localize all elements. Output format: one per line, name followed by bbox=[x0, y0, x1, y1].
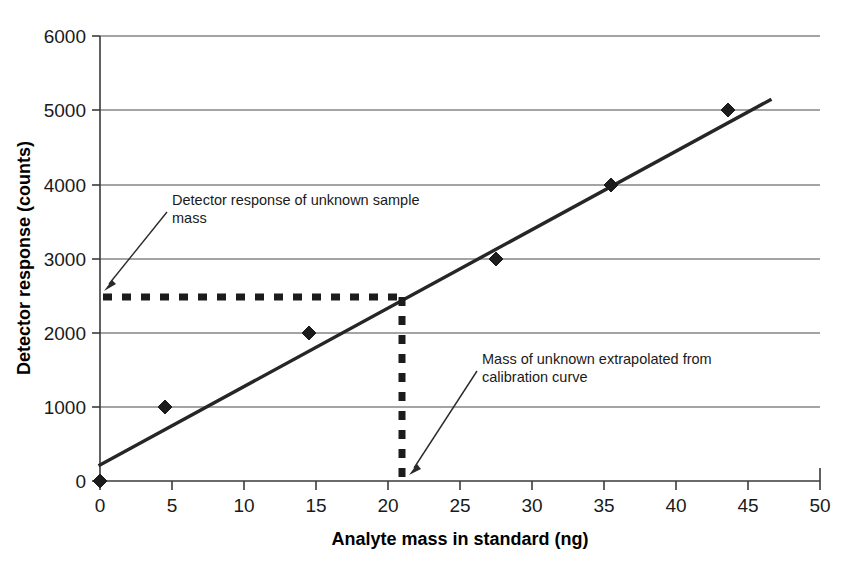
calibration-curve-chart: 6000 5000 4000 3000 2000 1000 0 0 5 10 1… bbox=[0, 0, 848, 562]
response-callout-line-1: Detector response of unknown sample bbox=[172, 192, 419, 208]
mass-callout: Mass of unknown extrapolated from calibr… bbox=[409, 351, 712, 475]
y-axis-title: Detector response (counts) bbox=[14, 141, 34, 375]
mass-callout-line-1: Mass of unknown extrapolated from bbox=[482, 351, 712, 367]
x-axis-ticks bbox=[100, 481, 820, 490]
x-tick-label-20: 20 bbox=[377, 495, 398, 516]
mass-callout-line-2: calibration curve bbox=[482, 369, 588, 385]
data-point-15-2000 bbox=[302, 326, 316, 340]
data-point-5-1000 bbox=[158, 400, 172, 414]
y-tick-label-1000: 1000 bbox=[44, 397, 86, 418]
y-tick-label-4000: 4000 bbox=[44, 175, 86, 196]
response-callout-line-2: mass bbox=[172, 210, 207, 226]
calibration-fit-line bbox=[100, 100, 770, 465]
x-tick-label-35: 35 bbox=[593, 495, 614, 516]
mass-callout-arrow-line bbox=[414, 371, 477, 468]
x-tick-label-5: 5 bbox=[167, 495, 178, 516]
y-tick-label-6000: 6000 bbox=[44, 26, 86, 47]
x-tick-label-50: 50 bbox=[809, 495, 830, 516]
response-callout: Detector response of unknown sample mass bbox=[104, 192, 419, 291]
x-axis-tick-labels: 0 5 10 15 20 25 30 35 40 45 50 bbox=[95, 495, 831, 516]
y-axis-tick-labels: 6000 5000 4000 3000 2000 1000 0 bbox=[44, 26, 86, 492]
response-callout-arrow-line bbox=[109, 212, 167, 284]
x-tick-label-30: 30 bbox=[521, 495, 542, 516]
y-tick-label-3000: 3000 bbox=[44, 249, 86, 270]
y-tick-label-2000: 2000 bbox=[44, 323, 86, 344]
chart-canvas: 6000 5000 4000 3000 2000 1000 0 0 5 10 1… bbox=[0, 0, 848, 562]
data-point-28-3000 bbox=[489, 252, 503, 266]
y-tick-label-5000: 5000 bbox=[44, 100, 86, 121]
x-tick-label-40: 40 bbox=[665, 495, 686, 516]
data-point-0-0 bbox=[93, 474, 107, 488]
y-axis-ticks bbox=[92, 36, 100, 481]
x-tick-label-0: 0 bbox=[95, 495, 106, 516]
data-point-44-5000 bbox=[721, 103, 735, 117]
gridlines bbox=[100, 36, 820, 407]
x-tick-label-25: 25 bbox=[449, 495, 470, 516]
x-tick-label-45: 45 bbox=[737, 495, 758, 516]
y-tick-label-0: 0 bbox=[75, 471, 86, 492]
x-tick-label-10: 10 bbox=[233, 495, 254, 516]
x-axis-title: Analyte mass in standard (ng) bbox=[331, 529, 588, 549]
x-tick-label-15: 15 bbox=[305, 495, 326, 516]
